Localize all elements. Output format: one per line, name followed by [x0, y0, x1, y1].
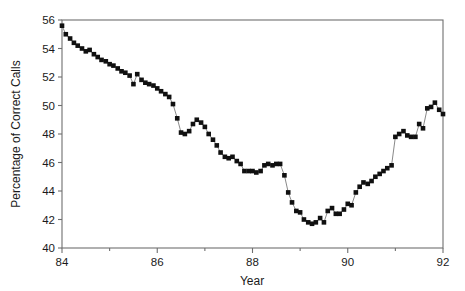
x-tick-label: 88: [246, 256, 259, 268]
plot-frame: [62, 20, 443, 248]
data-point-marker: [171, 102, 176, 107]
data-point-marker: [75, 43, 80, 48]
data-point-marker: [187, 129, 192, 134]
data-point-marker: [361, 180, 366, 185]
data-point-marker: [183, 132, 188, 137]
data-point-marker: [258, 169, 263, 174]
data-point-marker: [278, 162, 283, 167]
data-point-marker: [131, 82, 136, 87]
data-point-marker: [441, 112, 446, 117]
data-point-marker: [318, 216, 323, 221]
y-tick-label: 42: [42, 214, 55, 226]
y-tick-label: 48: [42, 128, 55, 140]
data-point-marker: [429, 105, 434, 110]
data-point-marker: [357, 184, 362, 189]
x-axis-title: Year: [240, 274, 264, 288]
data-point-marker: [298, 210, 303, 215]
data-point-marker: [385, 166, 390, 171]
data-point-marker: [342, 207, 347, 212]
data-point-marker: [389, 163, 394, 168]
data-point-marker: [68, 36, 73, 41]
data-point-marker: [242, 169, 247, 174]
data-point-marker: [123, 70, 128, 75]
data-point-marker: [206, 132, 211, 137]
y-axis-tick-labels: 404244464850525456: [42, 14, 55, 254]
data-point-marker: [409, 135, 414, 140]
x-tick-label: 84: [56, 256, 69, 268]
data-point-marker: [147, 82, 152, 87]
y-tick-label: 40: [42, 242, 55, 254]
y-tick-label: 50: [42, 100, 55, 112]
data-point-marker: [127, 73, 132, 78]
data-point-marker: [111, 63, 116, 68]
data-point-marker: [286, 190, 291, 195]
data-point-marker: [175, 116, 180, 121]
chart-figure: 404244464850525456 8486889092 Year Perce…: [0, 0, 465, 291]
data-point-marker: [373, 174, 378, 179]
y-axis-ticks: [58, 20, 62, 248]
data-point-marker: [214, 143, 219, 148]
data-point-marker: [218, 150, 223, 155]
data-point-marker: [211, 137, 216, 142]
data-point-marker: [397, 132, 402, 137]
data-point-marker: [421, 126, 426, 131]
data-point-marker: [199, 120, 204, 125]
data-point-marker: [266, 162, 271, 167]
data-point-marker: [60, 23, 65, 28]
data-point-marker: [87, 48, 92, 53]
x-axis-ticks: [62, 248, 443, 253]
data-point-marker: [64, 32, 69, 37]
data-point-marker: [290, 200, 295, 205]
data-point-marker: [322, 220, 327, 225]
data-point-marker: [191, 122, 196, 127]
data-point-marker: [282, 173, 287, 178]
data-point-marker: [302, 217, 307, 222]
data-point-marker: [417, 122, 422, 127]
y-axis-title: Percentage of Correct Calls: [9, 60, 23, 207]
y-tick-label: 52: [42, 71, 55, 83]
x-tick-label: 90: [341, 256, 354, 268]
data-point-marker: [254, 170, 259, 175]
data-point-marker: [167, 95, 172, 100]
data-point-marker: [194, 117, 199, 122]
series-line: [62, 26, 443, 224]
line-chart-canvas: 404244464850525456 8486889092 Year Perce…: [0, 0, 465, 291]
data-point-marker: [413, 135, 418, 140]
data-point-marker: [433, 100, 438, 105]
data-series-layer: [60, 23, 446, 226]
y-tick-label: 44: [42, 185, 55, 197]
x-axis-tick-labels: 8486889092: [56, 256, 450, 268]
data-point-marker: [99, 58, 104, 63]
x-tick-label: 86: [151, 256, 164, 268]
data-point-marker: [337, 212, 342, 217]
x-tick-label: 92: [437, 256, 450, 268]
y-tick-label: 54: [42, 43, 55, 55]
data-point-marker: [135, 72, 140, 77]
data-point-marker: [354, 190, 359, 195]
data-point-marker: [314, 220, 319, 225]
data-point-marker: [330, 206, 335, 211]
data-point-marker: [369, 179, 374, 184]
data-point-marker: [230, 155, 235, 160]
data-point-marker: [349, 203, 354, 208]
data-point-marker: [159, 89, 164, 94]
y-tick-label: 56: [42, 14, 55, 26]
data-point-marker: [238, 162, 243, 167]
data-point-marker: [203, 125, 208, 130]
y-tick-label: 46: [42, 157, 55, 169]
series-markers: [60, 23, 446, 226]
data-point-marker: [325, 209, 330, 214]
data-point-marker: [437, 107, 442, 112]
data-point-marker: [401, 129, 406, 134]
